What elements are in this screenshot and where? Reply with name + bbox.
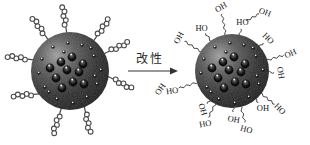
surface-dot — [93, 74, 96, 77]
encapsulated-particle — [214, 74, 223, 83]
surface-dot — [251, 46, 254, 49]
surface-dot — [80, 43, 83, 46]
surface-dot — [37, 71, 40, 74]
encapsulated-particle — [208, 64, 217, 73]
surface-dot — [242, 43, 245, 46]
surface-dot — [71, 101, 74, 104]
encapsulated-particle — [52, 74, 61, 83]
zigzag-chain: OH — [255, 99, 269, 113]
encapsulated-particle — [219, 58, 228, 67]
surface-dot — [247, 95, 250, 98]
coil-chain — [52, 108, 63, 136]
zigzag-chain: OH — [246, 5, 272, 21]
surface-dot — [62, 50, 65, 53]
coil-chain — [84, 106, 93, 134]
surface-dot — [95, 82, 98, 85]
encapsulated-particle — [237, 68, 246, 77]
hydroxyl-label: OH — [197, 102, 210, 116]
hydroxyl-label: OH — [275, 66, 287, 80]
right-nanoparticle: OHHOOHHOHOOHOHHOOHHOOHHOHOOHOHOH — [152, 0, 298, 136]
encapsulated-particle — [69, 78, 78, 87]
surface-dot — [205, 85, 208, 88]
surface-dot — [209, 90, 212, 93]
surface-dot — [217, 97, 220, 100]
hydroxyl-label: OH — [258, 5, 273, 19]
zigzag-chain: HO — [239, 106, 253, 136]
zigzag-chain: HO — [165, 82, 197, 96]
coil-chain — [5, 54, 33, 62]
zigzag-chain: OH — [197, 100, 211, 117]
left-nanoparticle — [5, 5, 134, 136]
encapsulated-particle — [58, 84, 67, 93]
encapsulated-particle — [68, 53, 77, 62]
hydroxyl-label: OH — [152, 81, 167, 97]
encapsulated-particle — [46, 64, 55, 73]
hydroxyl-label: OH — [257, 103, 269, 113]
encapsulated-particle — [57, 58, 66, 67]
surface-dot — [261, 68, 264, 71]
hydroxyl-label: OH — [171, 30, 186, 46]
hydroxyl-label: HO — [195, 23, 207, 33]
surface-dot — [51, 45, 54, 48]
encapsulated-particle — [231, 78, 240, 87]
encapsulated-particle — [241, 60, 250, 69]
zigzag-chain: OH — [268, 66, 287, 80]
arrow-head-icon — [170, 67, 178, 74]
encapsulated-particle — [220, 84, 229, 93]
coil-chain — [93, 17, 110, 41]
surface-dot — [85, 95, 88, 98]
zigzag-chain: HO — [195, 23, 211, 42]
hydroxyl-label: HO — [236, 17, 248, 27]
encapsulated-particle — [225, 66, 234, 75]
coil-chain — [108, 76, 134, 90]
surface-dot — [254, 54, 257, 57]
zigzag-chain: OH — [213, 0, 229, 36]
surface-dot — [257, 82, 260, 85]
hydroxyl-label: HO — [239, 123, 253, 136]
surface-dot — [213, 45, 216, 48]
arrow-label: 改性 — [136, 52, 164, 66]
hydroxyl-label: HO — [198, 118, 212, 130]
coil-chain — [11, 92, 39, 100]
surface-dot — [40, 57, 43, 60]
hydroxyl-label: OH — [283, 46, 298, 60]
zigzag-chain: OH — [227, 107, 241, 125]
surface-dot — [43, 85, 46, 88]
encapsulated-particle — [242, 80, 251, 89]
surface-dot — [89, 46, 92, 49]
hydroxyl-label: HO — [165, 85, 179, 97]
hydroxyl-label: OH — [213, 0, 229, 14]
surface-dot — [99, 68, 102, 71]
coil-chain — [60, 5, 68, 33]
diagram-canvas: 改性 OHHOOHHOHOOHOHHOOHHOOHHOHOOHOHOH — [0, 0, 310, 145]
zigzag-chain: HO — [259, 30, 276, 47]
surface-dot — [233, 101, 236, 104]
encapsulated-particle — [230, 53, 239, 62]
surface-dot — [228, 41, 231, 44]
zigzag-chain: OH — [266, 46, 298, 60]
encapsulated-particle — [79, 60, 88, 69]
zigzag-chain: OH — [171, 30, 201, 52]
encapsulated-particle — [63, 66, 72, 75]
surface-dot — [55, 97, 58, 100]
hydroxyl-label: OH — [227, 113, 241, 125]
surface-dot — [199, 71, 202, 74]
coil-chain — [104, 40, 130, 54]
surface-dot — [66, 41, 69, 44]
coil-chain — [30, 17, 48, 40]
surface-dot — [255, 74, 258, 77]
figure-nanoparticle-modification: 改性 OHHOOHHOHOOHOHHOOHHOOHHOHOOHOHOH — [0, 0, 310, 145]
surface-dot — [47, 90, 50, 93]
encapsulated-particle — [80, 80, 89, 89]
surface-dot — [92, 54, 95, 57]
surface-dot — [202, 57, 205, 60]
surface-dot — [224, 50, 227, 53]
hydroxyl-label: HO — [272, 101, 288, 117]
modification-arrow: 改性 — [128, 52, 178, 75]
encapsulated-particle — [75, 68, 84, 77]
